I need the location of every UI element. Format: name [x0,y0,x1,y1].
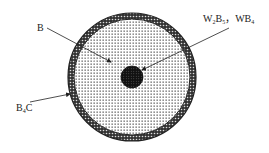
tungsten-boride-core [121,66,143,88]
fiber-cross-section-diagram: B W2B5，WB4 B4C [0,0,269,153]
label-boron: B [37,22,44,33]
label-tungsten-boride: W2B5，WB4 [203,13,254,25]
label-boron-carbide: B4C [16,102,33,114]
b4c-leader-line [30,94,70,102]
